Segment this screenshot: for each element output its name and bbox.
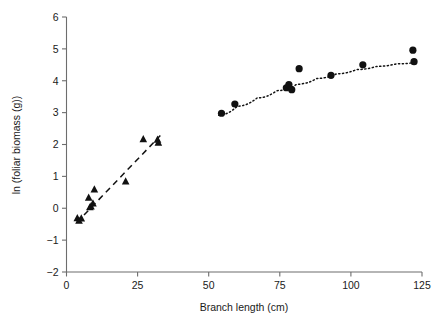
y-tick-label: 6 [53, 11, 59, 23]
x-tick-label: 50 [203, 279, 215, 291]
data-point-circle [409, 47, 416, 54]
x-tick-label: 125 [413, 279, 431, 291]
y-tick-label: −2 [47, 266, 59, 278]
data-point-circle [231, 100, 238, 107]
y-tick-label: 5 [53, 43, 59, 55]
y-tick-label: 3 [53, 106, 59, 118]
y-tick-label: −1 [47, 234, 59, 246]
y-tick-label: 4 [53, 75, 59, 87]
data-point-circle [218, 110, 225, 117]
data-point-circle [327, 72, 334, 79]
figure-background [0, 0, 447, 325]
data-point-circle [296, 65, 303, 72]
x-tick-label: 0 [64, 279, 70, 291]
data-point-circle [410, 58, 417, 65]
x-axis-title: Branch length (cm) [200, 301, 289, 313]
y-tick-label: 0 [53, 202, 59, 214]
y-tick-label: 1 [53, 170, 59, 182]
data-point-circle [288, 86, 295, 93]
y-tick-label: 2 [53, 138, 59, 150]
scatter-plot-figure: −2−10123456 0255075100125 Branch length … [0, 0, 447, 325]
x-tick-label: 100 [342, 279, 360, 291]
x-tick-label: 75 [274, 279, 286, 291]
data-point-circle [359, 61, 366, 68]
y-axis-title: ln (foliar biomass (g)) [10, 96, 22, 195]
x-tick-label: 25 [132, 279, 144, 291]
